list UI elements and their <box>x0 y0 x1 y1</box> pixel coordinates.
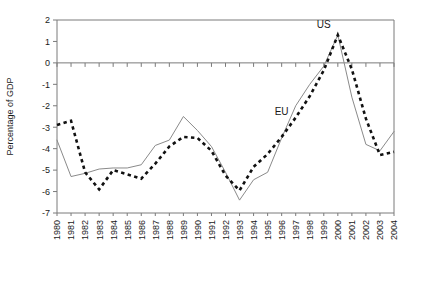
x-tick-label: 1989 <box>179 220 189 240</box>
y-tick-label: -3 <box>42 123 50 133</box>
x-tick-label: 1996 <box>277 220 287 240</box>
x-tick-label: 1995 <box>263 220 273 240</box>
deficit-line-chart: Percentage of GDP 210-1-2-3-4-5-6-7 1980… <box>0 0 436 286</box>
x-tick-label: 1997 <box>291 220 301 240</box>
x-tick-label: 1985 <box>123 220 133 240</box>
x-tick-label: 1984 <box>109 220 119 240</box>
y-axis-ticks-group: 210-1-2-3-4-5-6-7 <box>42 15 57 218</box>
y-tick-label: -7 <box>42 208 50 218</box>
y-tick-label: 0 <box>45 58 50 68</box>
x-tick-label: 1993 <box>235 220 245 240</box>
x-tick-label: 1987 <box>151 220 161 240</box>
x-tick-label: 1981 <box>66 220 76 240</box>
data-series-group <box>57 35 394 200</box>
x-tick-label: 2000 <box>333 220 343 240</box>
y-tick-label: 2 <box>45 15 50 25</box>
x-tick-label: 2002 <box>361 220 371 240</box>
x-tick-label: 1988 <box>165 220 175 240</box>
y-tick-label: -6 <box>42 187 50 197</box>
x-tick-label: 1991 <box>207 220 217 240</box>
x-tick-label: 1990 <box>193 220 203 240</box>
y-axis-title-group: Percentage of GDP <box>5 77 15 155</box>
x-tick-label: 1998 <box>305 220 315 240</box>
x-tick-label: 1982 <box>80 220 90 240</box>
x-tick-label: 2001 <box>347 220 357 240</box>
series-label-us: US <box>317 19 331 30</box>
y-axis-title: Percentage of GDP <box>5 77 15 155</box>
x-tick-label: 1986 <box>137 220 147 240</box>
y-tick-label: 1 <box>45 37 50 47</box>
y-tick-label: -1 <box>42 80 50 90</box>
series-line-eu <box>57 35 394 200</box>
x-tick-label: 1983 <box>95 220 105 240</box>
series-label-eu: EU <box>275 106 289 117</box>
y-tick-label: -5 <box>42 165 50 175</box>
x-tick-label: 1992 <box>221 220 231 240</box>
x-tick-label: 1994 <box>249 220 259 240</box>
x-tick-label: 1999 <box>319 220 329 240</box>
y-tick-label: -4 <box>42 144 50 154</box>
x-tick-label: 2003 <box>375 220 385 240</box>
x-tick-label: 1980 <box>52 220 62 240</box>
x-tick-label: 2004 <box>389 220 399 240</box>
chart-container: Percentage of GDP 210-1-2-3-4-5-6-7 1980… <box>0 0 436 286</box>
y-tick-label: -2 <box>42 101 50 111</box>
